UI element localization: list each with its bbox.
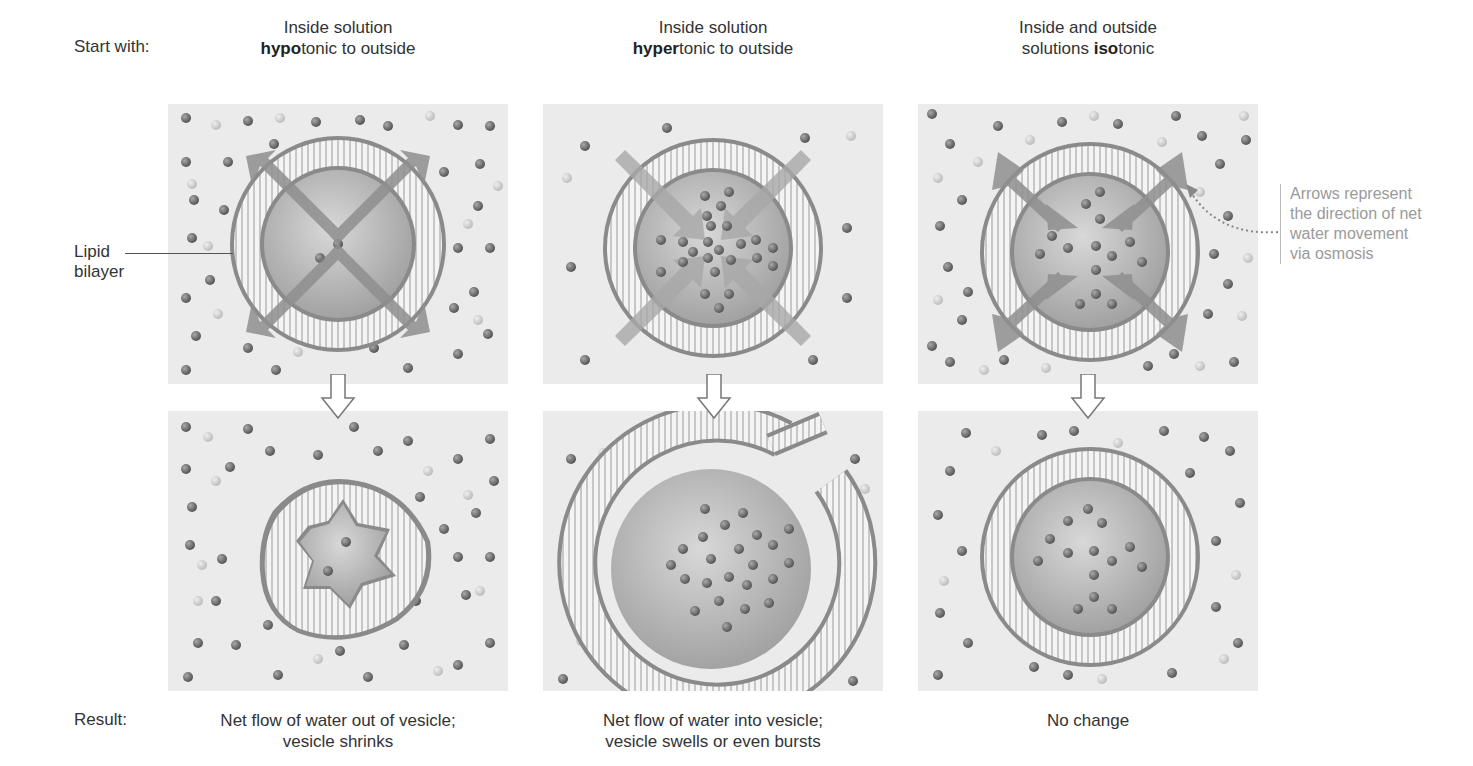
title-prefix: solutions (1022, 39, 1094, 58)
title-rest: tonic (1118, 39, 1154, 58)
title-line1: Inside and outside (918, 17, 1258, 38)
down-arrow-icon (696, 374, 732, 420)
lipid-leader-line (125, 253, 233, 254)
vesicle-diagram (168, 104, 508, 384)
vesicle-unchanged-diagram (918, 411, 1258, 691)
vesicle-burst-diagram (543, 411, 883, 691)
result-hypotonic: Net flow of water out of vesicle; vesicl… (148, 710, 528, 752)
lipid-bilayer-burst (577, 423, 857, 691)
lipid-bilayer-shrunk (260, 479, 432, 640)
column-title-hypotonic: Inside solution hypotonic to outside (168, 17, 508, 59)
panel-hypotonic-start (168, 104, 508, 384)
result-line1: No change (898, 710, 1278, 731)
down-arrow-icon (320, 374, 356, 420)
title-line1: Inside solution (543, 17, 883, 38)
title-line1: Inside solution (168, 17, 508, 38)
result-line2: vesicle shrinks (148, 731, 528, 752)
note-dotted-leader (1180, 180, 1280, 240)
start-with-label: Start with: (74, 37, 150, 57)
lipid-bilayer-label: Lipid bilayer (74, 242, 124, 282)
result-hypertonic: Net flow of water into vesicle; vesicle … (523, 710, 903, 752)
panel-isotonic-result (918, 411, 1258, 691)
result-label: Result: (74, 710, 127, 730)
down-arrow-icon (1070, 374, 1106, 420)
panel-isotonic-start (918, 104, 1258, 384)
title-bold: iso (1094, 39, 1119, 58)
note-line3: water movement (1290, 224, 1473, 244)
lipid-label-line2: bilayer (74, 262, 124, 282)
arrows-explanation-note: Arrows represent the direction of net wa… (1280, 184, 1473, 264)
note-line2: the direction of net (1290, 204, 1473, 224)
title-line2: hypertonic to outside (543, 38, 883, 59)
result-line2: vesicle swells or even bursts (523, 731, 903, 752)
title-rest: tonic to outside (301, 39, 415, 58)
result-line1: Net flow of water out of vesicle; (148, 710, 528, 731)
lipid-label-line1: Lipid (74, 242, 124, 262)
result-isotonic: No change (898, 710, 1278, 731)
vesicle-shrunk-diagram (168, 411, 508, 691)
title-line2: hypotonic to outside (168, 38, 508, 59)
title-line2: solutions isotonic (918, 38, 1258, 59)
title-bold: hyper (633, 39, 679, 58)
title-bold: hypo (261, 39, 302, 58)
vesicle-diagram (918, 104, 1258, 384)
note-line4: via osmosis (1290, 244, 1473, 264)
title-rest: tonic to outside (679, 39, 793, 58)
result-line1: Net flow of water into vesicle; (523, 710, 903, 731)
column-title-isotonic: Inside and outside solutions isotonic (918, 17, 1258, 59)
vesicle-diagram (543, 104, 883, 384)
note-line1: Arrows represent (1290, 184, 1473, 204)
column-title-hypertonic: Inside solution hypertonic to outside (543, 17, 883, 59)
panel-hypertonic-start (543, 104, 883, 384)
lipid-bilayer (980, 447, 1200, 667)
panel-hypotonic-result (168, 411, 508, 691)
panel-hypertonic-result (543, 411, 883, 691)
